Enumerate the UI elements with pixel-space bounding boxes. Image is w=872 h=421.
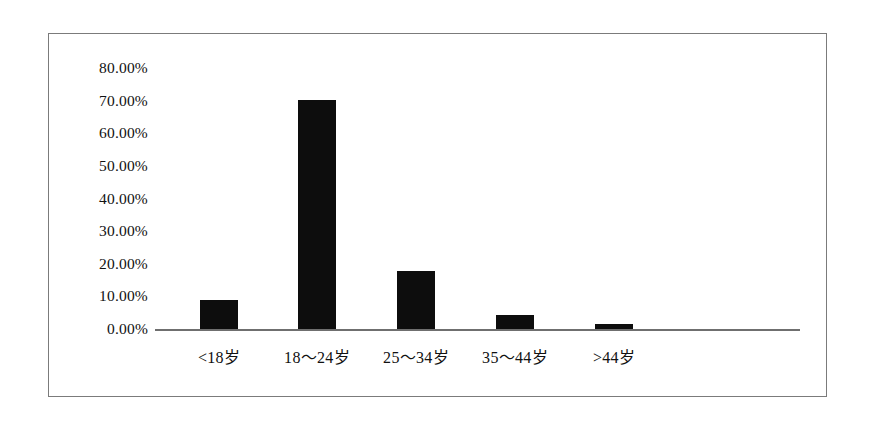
y-axis-tick-label-50: 50.00% [0, 157, 148, 175]
y-axis-tick-label-80: 80.00% [0, 59, 148, 77]
figure-root: 80.00% 70.00% 60.00% 50.00% 40.00% 30.00… [0, 0, 872, 421]
plot-area: 80.00% 70.00% 60.00% 50.00% 40.00% 30.00… [0, 0, 872, 421]
bar-18-24 [298, 100, 336, 329]
bar-lt-18 [200, 300, 238, 329]
bar-25-34 [397, 271, 435, 329]
x-axis-label-gt-44: >44岁 [549, 344, 679, 368]
y-axis-tick-label-40: 40.00% [0, 190, 148, 208]
y-axis-tick-label-70: 70.00% [0, 92, 148, 110]
bar-35-44 [496, 315, 534, 329]
y-axis-tick-label-10: 10.00% [0, 287, 148, 305]
y-axis-tick-label-30: 30.00% [0, 222, 148, 240]
y-axis-tick-label-20: 20.00% [0, 255, 148, 273]
y-axis-tick-label-0: 0.00% [0, 320, 148, 338]
y-axis-tick-label-60: 60.00% [0, 124, 148, 142]
x-axis-line [155, 329, 800, 331]
